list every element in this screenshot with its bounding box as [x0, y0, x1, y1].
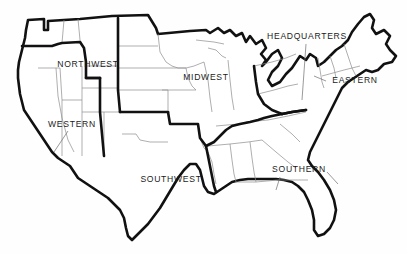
region-label-eastern: EASTERN: [332, 75, 378, 85]
us-regions-map: NORTHWEST MIDWEST HEADQUARTERS EASTERN W…: [0, 0, 407, 254]
region-label-northwest: NORTHWEST: [57, 59, 119, 69]
region-label-southern: SOUTHERN: [272, 164, 326, 174]
map-svg: NORTHWEST MIDWEST HEADQUARTERS EASTERN W…: [0, 0, 407, 254]
region-label-southwest: SOUTHWEST: [140, 174, 201, 184]
region-label-headquarters: HEADQUARTERS: [267, 31, 347, 41]
region-label-western: WESTERN: [48, 119, 96, 129]
region-label-midwest: MIDWEST: [183, 72, 229, 82]
leader-line-southern: [327, 172, 338, 184]
